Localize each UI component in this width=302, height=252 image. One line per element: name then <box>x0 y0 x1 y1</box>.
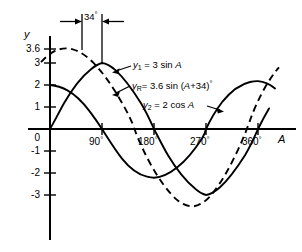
leader-arrow-y2 <box>216 108 224 114</box>
curve-label-y1-arg: A <box>175 59 181 70</box>
x-tick-label-270: 270° <box>190 136 210 147</box>
phase-shift-degree-symbol: ° <box>95 10 98 19</box>
y-axis-label: y <box>24 29 30 40</box>
phase-shift-label: 34° <box>84 11 98 22</box>
degree-symbol-180: ° <box>155 136 158 143</box>
x-axis-label: A <box>278 134 285 145</box>
curve-yR-3.6sin-A-plus-34 <box>41 48 279 206</box>
y-tick-label-neg1: -1 <box>8 146 40 156</box>
x-tick-label-360: 360° <box>242 136 262 147</box>
x-tick-label-180: 180° <box>138 136 158 147</box>
curve-label-yR-plus: +34) <box>190 80 209 91</box>
curve-label-y2-equation: = 2 cos <box>152 99 188 110</box>
plot-canvas <box>0 0 302 252</box>
trigonometric-graph-figure: 3.6 3 2 1 0 -1 -2 -3 90° 180° 270° 360° … <box>0 0 302 252</box>
degree-symbol-360: ° <box>259 136 262 143</box>
y-tick-label-0: 0 <box>8 133 40 143</box>
y-tick-label-neg2: -2 <box>8 168 40 178</box>
curve-label-y2-arg: A <box>188 99 194 110</box>
leader-line-yR <box>116 86 130 93</box>
curve-label-y1-equation: = 3 sin <box>142 59 176 70</box>
phase-shift-value: 34 <box>84 11 95 22</box>
x-tick-270-value: 270 <box>190 136 207 147</box>
x-tick-180-value: 180 <box>138 136 155 147</box>
degree-symbol-270: ° <box>207 136 210 143</box>
y-tick-label-neg3: -3 <box>8 190 40 200</box>
phase-right-arrow-head <box>102 19 109 25</box>
y-tick-label-3: 3 <box>8 58 40 68</box>
y-tick-label-2: 2 <box>8 80 40 90</box>
curve-label-y1: y1 = 3 sin A <box>133 60 182 71</box>
x-tick-360-value: 360 <box>242 136 259 147</box>
x-tick-90-value: 90 <box>89 136 100 147</box>
curve-label-yR-degree-symbol: ° <box>209 79 212 88</box>
x-tick-label-90: 90° <box>89 136 103 147</box>
curve-label-y2: y2 = 2 cos A <box>143 100 194 111</box>
curve-label-yR-equation: = 3.6 sin ( <box>142 80 184 91</box>
y-tick-label-3.6: 3.6 <box>8 44 40 54</box>
phase-left-arrow-head <box>75 19 82 25</box>
curve-label-yR: yR= 3.6 sin (A+34)° <box>132 80 212 92</box>
y-tick-label-1: 1 <box>8 102 40 112</box>
degree-symbol-90: ° <box>100 136 103 143</box>
